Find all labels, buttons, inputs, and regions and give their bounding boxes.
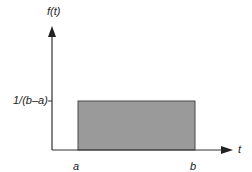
x-axis-label: t	[238, 143, 241, 155]
density-rectangle	[78, 101, 195, 150]
tick-label-a: a	[73, 160, 79, 172]
x-axis-arrow-icon	[221, 146, 233, 154]
height-tick-label: 1/(b–a)	[13, 94, 48, 106]
uniform-density-plot	[0, 0, 252, 172]
tick-label-b: b	[190, 160, 196, 172]
y-axis-arrow-icon	[48, 26, 56, 37]
y-axis-label: f(t)	[47, 5, 60, 17]
